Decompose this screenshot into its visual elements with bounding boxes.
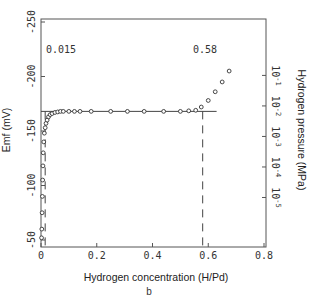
y2-tick-label: 10-3 (270, 126, 282, 146)
annotation-058: 0.58 (193, 44, 217, 55)
data-point (78, 109, 82, 113)
data-point (178, 109, 182, 113)
y-tick-label: -150 (26, 119, 37, 143)
data-point (89, 109, 93, 113)
data-point (43, 126, 47, 130)
y2-tick-label: 10-1 (270, 65, 282, 85)
data-point (41, 151, 45, 155)
y-tick-label: -100 (26, 173, 37, 197)
y-tick-label: -200 (26, 64, 37, 88)
y-tick-label: -50 (26, 231, 37, 249)
data-point (67, 109, 71, 113)
y2-tick-label: 10-4 (270, 157, 282, 177)
y-tick-label: -250 (26, 10, 37, 34)
data-point (42, 140, 46, 144)
subfigure-label: b (146, 286, 152, 297)
data-point (126, 109, 130, 113)
data-point (40, 211, 44, 215)
y2-axis-title: Hydrogen pressure (MPa) (296, 70, 308, 191)
emf-vs-hydrogen-chart: 00.20.40.60.8 -50-100-150-200-250 10-110… (0, 0, 310, 301)
data-point (187, 109, 191, 113)
x-tick-label: 0 (38, 250, 44, 261)
data-point (206, 99, 210, 103)
x-tick-label: 0.8 (255, 250, 273, 261)
y2-tick-label: 10-5 (270, 187, 282, 207)
data-point (61, 109, 65, 113)
x-tick-label: 0.4 (143, 250, 161, 261)
data-point (42, 131, 46, 135)
data-point (194, 108, 198, 112)
data-point (227, 69, 231, 73)
data-point (220, 80, 224, 84)
data-point (41, 178, 45, 182)
x-axis-ticks: 00.20.40.60.8 (38, 243, 273, 261)
data-point (41, 164, 45, 168)
reference-lines (41, 111, 217, 246)
data-point (73, 109, 77, 113)
x-tick-label: 0.6 (199, 250, 217, 261)
data-point (199, 105, 203, 109)
y2-tick-label: 10-2 (270, 96, 282, 116)
annotation-0015: 0.015 (46, 44, 76, 55)
data-point (213, 90, 217, 94)
data-point (109, 109, 113, 113)
x-tick-label: 0.2 (88, 250, 106, 261)
data-point (40, 195, 44, 199)
y-axis-title: Emf (mV) (0, 108, 12, 152)
data-point (142, 109, 146, 113)
data-point (40, 236, 44, 240)
x-axis-title: Hydrogen concentration (H/Pd) (84, 271, 229, 283)
data-point (162, 109, 166, 113)
annotations: 0.0150.58 (46, 44, 217, 55)
y2-axis-ticks: 10-110-210-310-410-5 (262, 65, 282, 208)
data-point (40, 227, 44, 231)
